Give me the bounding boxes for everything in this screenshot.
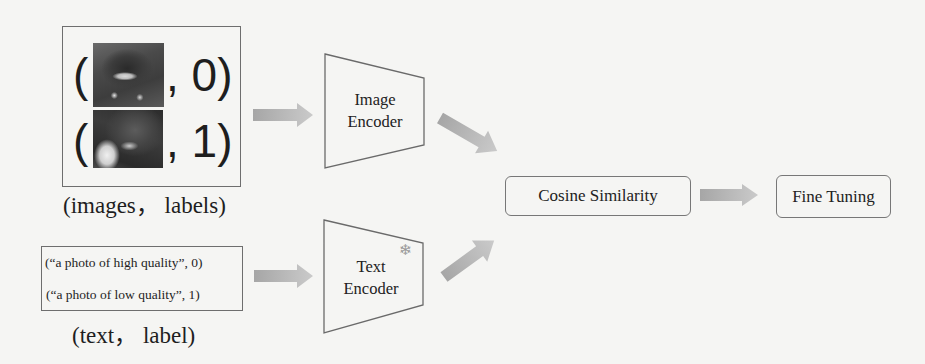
arrow-cosine-to-finetuning bbox=[700, 184, 758, 206]
text-encoder-line2: Encoder bbox=[326, 278, 416, 300]
cosine-similarity-label: Cosine Similarity bbox=[538, 186, 657, 206]
thumbnail-low-quality-image bbox=[93, 110, 163, 168]
open-paren-row-0: ( bbox=[73, 52, 88, 98]
image-encoder-line1: Image bbox=[330, 89, 420, 111]
arrow-text-encoder-to-cosine bbox=[436, 230, 501, 287]
text-encoder-label: Text Encoder bbox=[326, 256, 416, 300]
image-encoder-line2: Encoder bbox=[330, 111, 420, 133]
image-encoder-label: Image Encoder bbox=[330, 89, 420, 133]
label-row-0: , 0) bbox=[166, 52, 232, 98]
fine-tuning-label: Fine Tuning bbox=[792, 187, 875, 207]
image-input-caption: (images， labels) bbox=[63, 186, 226, 220]
text-input-caption: (text， label) bbox=[72, 316, 195, 350]
arrow-image-to-encoder bbox=[253, 103, 313, 127]
text-prompt-high-quality: (“a photo of high quality”, 0) bbox=[45, 255, 202, 271]
text-prompt-low-quality: (“a photo of low quality”, 1) bbox=[46, 287, 200, 303]
label-row-1: , 1) bbox=[166, 118, 232, 164]
cosine-similarity-box: Cosine Similarity bbox=[505, 176, 691, 216]
text-encoder-line1: Text bbox=[326, 256, 416, 278]
snowflake-icon: ❄ bbox=[399, 241, 412, 259]
open-paren-row-1: ( bbox=[73, 118, 88, 164]
arrow-text-to-encoder bbox=[254, 264, 313, 288]
thumbnail-high-quality-image bbox=[93, 43, 164, 107]
arrow-image-encoder-to-cosine bbox=[434, 107, 504, 163]
fine-tuning-box: Fine Tuning bbox=[776, 175, 891, 218]
